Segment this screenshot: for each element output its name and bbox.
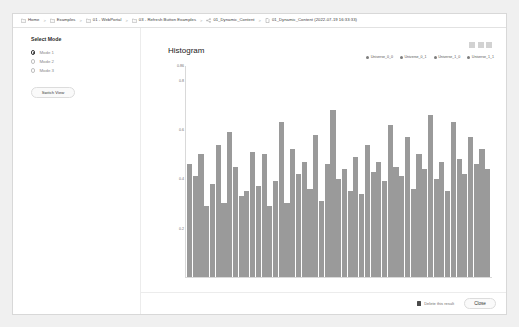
bar[interactable] bbox=[468, 137, 473, 277]
bar[interactable] bbox=[428, 115, 433, 277]
bar[interactable] bbox=[342, 169, 347, 277]
radio-label: Mode 3 bbox=[39, 68, 54, 73]
bar[interactable] bbox=[451, 122, 456, 277]
chart-tool-1-icon[interactable] bbox=[469, 42, 475, 48]
legend-item[interactable]: Universe_0_1 bbox=[400, 55, 427, 59]
chart-tool-2-icon[interactable] bbox=[478, 42, 484, 48]
bar[interactable] bbox=[325, 164, 330, 277]
radio-button[interactable] bbox=[31, 59, 35, 63]
radio-button[interactable] bbox=[31, 68, 35, 72]
breadcrumb-item-refresh-button-examples[interactable]: 03 - Refresh Button Examples bbox=[132, 18, 196, 23]
bar[interactable] bbox=[348, 191, 353, 277]
bar[interactable] bbox=[198, 154, 203, 277]
bar[interactable] bbox=[445, 191, 450, 277]
bar[interactable] bbox=[313, 135, 318, 277]
breadcrumb: Home > Examples > 01 - WebPortal > bbox=[13, 14, 506, 28]
bar[interactable] bbox=[399, 176, 404, 277]
breadcrumb-item-webportal[interactable]: 01 - WebPortal bbox=[86, 18, 122, 23]
folder-icon bbox=[21, 18, 26, 23]
y-axis-tick-label: 0.2 bbox=[169, 227, 184, 231]
bar[interactable] bbox=[411, 189, 416, 277]
delete-result-label: Delete this result bbox=[424, 301, 454, 306]
bar[interactable] bbox=[187, 164, 192, 277]
breadcrumb-item-examples[interactable]: Examples bbox=[50, 18, 76, 23]
breadcrumb-item-home[interactable]: Home bbox=[21, 18, 39, 23]
delete-result-checkbox[interactable] bbox=[417, 301, 422, 306]
bar[interactable] bbox=[422, 169, 427, 277]
chart-legend: Universe_0_0Universe_0_1Universe_1_0Univ… bbox=[366, 55, 494, 59]
bar[interactable] bbox=[319, 201, 324, 277]
bar[interactable] bbox=[405, 137, 410, 277]
breadcrumb-separator: > bbox=[199, 18, 203, 23]
bar[interactable] bbox=[204, 206, 209, 277]
bar[interactable] bbox=[479, 149, 484, 277]
bar[interactable] bbox=[210, 184, 215, 277]
bar[interactable] bbox=[416, 154, 421, 277]
bar[interactable] bbox=[302, 162, 307, 277]
breadcrumb-separator: > bbox=[42, 18, 46, 23]
legend-item[interactable]: Universe_1_1 bbox=[467, 55, 494, 59]
radio-label: Mode 2 bbox=[39, 59, 54, 64]
bar[interactable] bbox=[376, 162, 381, 277]
bar[interactable] bbox=[244, 191, 249, 277]
select-mode-panel: Select Mode Mode 1 Mode 2 Mode 3 Switch … bbox=[13, 28, 141, 314]
chart-tool-3-icon[interactable] bbox=[486, 42, 492, 48]
bar[interactable] bbox=[462, 174, 467, 277]
bar[interactable] bbox=[279, 122, 284, 277]
bar[interactable] bbox=[485, 169, 490, 277]
bar[interactable] bbox=[330, 110, 335, 277]
bar[interactable] bbox=[439, 162, 444, 277]
chart-panel: Histogram Universe_0_0Universe_0_1Univer… bbox=[141, 28, 506, 292]
bar[interactable] bbox=[307, 189, 312, 277]
legend-label: Universe_0_0 bbox=[371, 55, 393, 59]
chart-toolbar bbox=[469, 42, 492, 48]
legend-marker-icon bbox=[434, 56, 437, 59]
bar[interactable] bbox=[359, 194, 364, 277]
bar[interactable] bbox=[267, 206, 272, 277]
bar[interactable] bbox=[227, 132, 232, 277]
legend-item[interactable]: Universe_1_0 bbox=[434, 55, 461, 59]
folder-icon bbox=[86, 18, 91, 23]
breadcrumb-item-current-result[interactable]: 01_Dynamic_Content (2022-07-19 16:33:33) bbox=[265, 18, 357, 23]
bar[interactable] bbox=[393, 167, 398, 277]
bar[interactable] bbox=[474, 164, 479, 277]
bar[interactable] bbox=[193, 176, 198, 277]
radio-button[interactable] bbox=[31, 50, 35, 54]
bar[interactable] bbox=[457, 159, 462, 277]
breadcrumb-item-dynamic-content[interactable]: 01_Dynamic_Content bbox=[206, 18, 254, 23]
y-axis-tick-label: 0.4 bbox=[169, 177, 184, 181]
breadcrumb-separator: > bbox=[79, 18, 83, 23]
bar[interactable] bbox=[256, 186, 261, 277]
radio-option-mode-1[interactable]: Mode 1 bbox=[31, 48, 140, 57]
legend-item[interactable]: Universe_0_0 bbox=[366, 55, 393, 59]
x-axis bbox=[185, 277, 492, 278]
close-button[interactable]: Close bbox=[464, 298, 496, 309]
bar[interactable] bbox=[296, 174, 301, 277]
radio-option-mode-3[interactable]: Mode 3 bbox=[31, 66, 140, 75]
screenshot-root: Home > Examples > 01 - WebPortal > bbox=[0, 0, 519, 327]
bar[interactable] bbox=[388, 125, 393, 277]
bar[interactable] bbox=[382, 181, 387, 277]
bar[interactable] bbox=[284, 203, 289, 277]
bar[interactable] bbox=[273, 181, 278, 277]
switch-view-button[interactable]: Switch View bbox=[31, 87, 75, 98]
delete-result-checkbox-row[interactable]: Delete this result bbox=[417, 301, 454, 306]
bar[interactable] bbox=[262, 154, 267, 277]
bar[interactable] bbox=[221, 203, 226, 277]
bar[interactable] bbox=[250, 152, 255, 277]
panel-title: Select Mode bbox=[31, 36, 140, 42]
bar[interactable] bbox=[336, 179, 341, 277]
plot-area: 0.860.80.60.40.2 bbox=[169, 66, 492, 278]
share-nodes-icon bbox=[206, 18, 211, 23]
bar[interactable] bbox=[434, 179, 439, 277]
bar[interactable] bbox=[365, 145, 370, 277]
document-icon bbox=[265, 18, 270, 23]
bar[interactable] bbox=[239, 196, 244, 277]
bar[interactable] bbox=[233, 167, 238, 277]
bar[interactable] bbox=[216, 145, 221, 277]
y-axis-tick-label: 0.6 bbox=[169, 128, 184, 132]
radio-option-mode-2[interactable]: Mode 2 bbox=[31, 57, 140, 66]
bar[interactable] bbox=[353, 157, 358, 277]
bar[interactable] bbox=[290, 149, 295, 277]
bar[interactable] bbox=[371, 172, 376, 278]
